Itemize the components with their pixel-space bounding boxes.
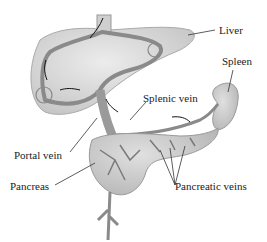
splenic-vein [112,104,218,135]
label-pancreas: Pancreas [10,180,49,192]
portal-system-diagram: Liver Spleen Splenic vein Portal vein Pa… [0,0,267,242]
label-pancreatic-veins: Pancreatic veins [175,180,247,192]
portal-vein [100,90,112,135]
label-splenic-vein: Splenic vein [143,92,198,104]
label-liver: Liver [219,24,243,36]
mesenteric-vein [98,192,118,240]
label-spleen: Spleen [222,55,252,67]
label-portal-vein: Portal vein [14,149,62,161]
anatomy-illustration [0,0,267,242]
